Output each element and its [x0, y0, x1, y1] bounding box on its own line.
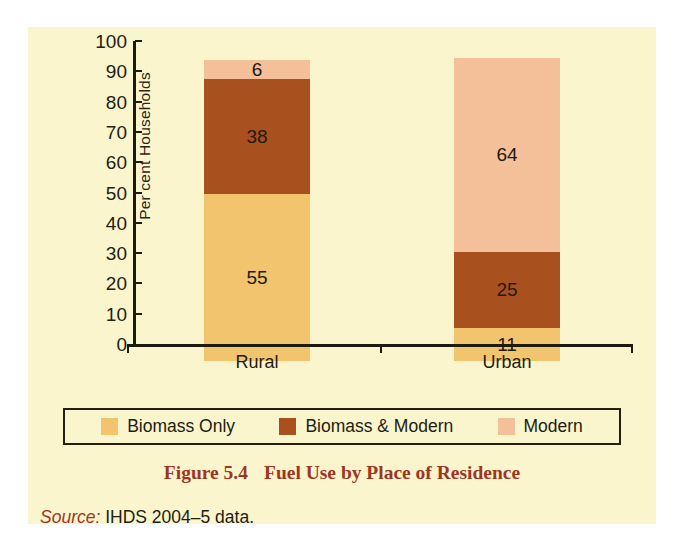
- y-tick-label-10: 10: [106, 304, 127, 323]
- y-tick-label-100: 100: [95, 32, 127, 51]
- y-tick-label-50: 50: [106, 183, 127, 202]
- bar-segment-urban-modern[interactable]: 64: [454, 58, 560, 252]
- y-tick-label-40: 40: [106, 213, 127, 232]
- bar-segment-rural-biomass-modern[interactable]: 38: [204, 79, 310, 194]
- figure-source: Source: IHDS 2004–5 data.: [40, 507, 254, 528]
- bar-value-rural-biomass-only: 55: [246, 268, 267, 287]
- x-tick-mark-end: [631, 344, 633, 353]
- y-tick-label-90: 90: [106, 62, 127, 81]
- chart-legend: Biomass Only Biomass & Modern Modern: [63, 408, 621, 445]
- y-tick-mark-90: [135, 70, 142, 72]
- y-tick-mark-60: [135, 161, 142, 163]
- x-axis-label-rural: Rural: [177, 352, 337, 373]
- y-tick-mark-30: [135, 252, 142, 254]
- legend-swatch-biomass-and-modern: [279, 418, 296, 435]
- bar-segment-rural-biomass-only[interactable]: 55: [204, 194, 310, 361]
- y-tick-label-30: 30: [106, 244, 127, 263]
- source-text: IHDS 2004–5 data.: [105, 507, 254, 527]
- bar-segment-urban-biomass-modern[interactable]: 25: [454, 252, 560, 328]
- y-tick-label-20: 20: [106, 274, 127, 293]
- bar-segment-rural-modern[interactable]: 6: [204, 60, 310, 79]
- y-tick-mark-80: [135, 101, 142, 103]
- legend-swatch-biomass-only: [101, 418, 118, 435]
- y-tick-mark-10: [135, 313, 142, 315]
- y-tick-label-0: 0: [116, 335, 127, 354]
- legend-label-biomass-and-modern: Biomass & Modern: [305, 416, 453, 437]
- bar-value-urban-biomass-modern: 25: [496, 280, 517, 299]
- x-tick-mark-start: [127, 344, 129, 353]
- y-tick-mark-70: [135, 131, 142, 133]
- legend-item-modern[interactable]: Modern: [498, 416, 583, 437]
- y-axis-line: [133, 41, 136, 346]
- legend-label-biomass-only: Biomass Only: [127, 416, 235, 437]
- y-axis-title: Per cent Households: [136, 46, 154, 246]
- x-tick-mark-middle: [380, 344, 382, 353]
- y-tick-label-70: 70: [106, 122, 127, 141]
- y-axis-tick-labels: 100 90 80 70 60 50 40 30 20 10 0: [89, 41, 127, 345]
- y-tick-mark-50: [135, 192, 142, 194]
- y-tick-label-60: 60: [106, 153, 127, 172]
- figure-number: Figure 5.4: [164, 462, 248, 483]
- source-label: Source:: [40, 507, 100, 527]
- bar-value-rural-biomass-modern: 38: [246, 127, 267, 146]
- bar-value-urban-modern: 64: [496, 145, 517, 164]
- y-tick-mark-100: [135, 40, 142, 42]
- bar-rural[interactable]: 6 38 55: [204, 58, 310, 361]
- bar-value-rural-modern: 6: [252, 60, 263, 79]
- plot-area: Per cent Households 100 90 80 70 60 50 4…: [133, 41, 633, 361]
- legend-label-modern: Modern: [524, 416, 583, 437]
- y-tick-mark-20: [135, 282, 142, 284]
- figure-panel: Per cent Households 100 90 80 70 60 50 4…: [28, 27, 656, 524]
- legend-swatch-modern: [498, 418, 515, 435]
- y-tick-label-80: 80: [106, 92, 127, 111]
- bar-urban[interactable]: 64 25 11: [454, 58, 560, 361]
- legend-item-biomass-and-modern[interactable]: Biomass & Modern: [279, 416, 453, 437]
- legend-item-biomass-only[interactable]: Biomass Only: [101, 416, 235, 437]
- figure-root: Per cent Households 100 90 80 70 60 50 4…: [0, 0, 682, 549]
- figure-title: Fuel Use by Place of Residence: [264, 462, 520, 483]
- x-axis-label-urban: Urban: [427, 352, 587, 373]
- figure-caption: Figure 5.4Fuel Use by Place of Residence: [28, 462, 656, 484]
- y-tick-mark-40: [135, 222, 142, 224]
